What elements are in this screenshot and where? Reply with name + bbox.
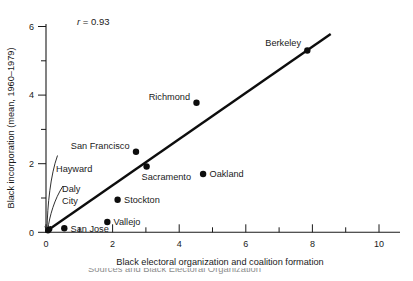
point-daly-city[interactable] [45, 228, 51, 234]
label-stockton: Stockton [124, 195, 160, 205]
label-san-francisco: San Francisco [71, 141, 130, 151]
point-labels: Berkeley Richmond San Francisco Sacramen… [56, 38, 301, 234]
label-sacramento: Sacramento [142, 172, 192, 182]
y-axis: 0 2 4 6 Black incorporation (mean, 1960–… [6, 22, 46, 238]
scatter-plot: 0 2 4 6 Black incorporation (mean, 1960–… [0, 0, 413, 281]
y-tick-label-6: 6 [29, 22, 34, 32]
label-richmond: Richmond [149, 92, 190, 102]
correlation-annotation: r = 0.93 [77, 16, 110, 27]
label-san-jose: San Jose [71, 224, 109, 234]
point-richmond[interactable] [193, 100, 199, 106]
label-oakland: Oakland [210, 169, 244, 179]
figure-container: 0 2 4 6 Black incorporation (mean, 1960–… [0, 0, 413, 281]
y-axis-title: Black incorporation (mean, 1960–1979) [6, 48, 16, 209]
daly-city-leader-line [48, 186, 63, 230]
x-tick-label-2: 2 [110, 239, 115, 249]
x-tick-label-8: 8 [310, 239, 315, 249]
x-tick-label-4: 4 [177, 239, 182, 249]
x-tick-label-0: 0 [43, 239, 48, 249]
point-berkeley[interactable] [304, 47, 310, 53]
point-sacramento[interactable] [143, 163, 149, 169]
x-axis-title: Black electoral organization and coaliti… [116, 257, 323, 267]
caption-strip: Sources and Black Electoral Organization [0, 268, 413, 281]
label-city: City [62, 196, 78, 206]
correlation-value: = 0.93 [80, 16, 109, 27]
point-stockton[interactable] [114, 197, 120, 203]
label-vallejo: Vallejo [114, 217, 141, 227]
regression-line [46, 34, 331, 232]
partial-caption: Sources and Black Electoral Organization [88, 268, 261, 274]
point-san-jose[interactable] [61, 225, 67, 231]
point-san-francisco[interactable] [133, 149, 139, 155]
label-hayward: Hayward [56, 164, 92, 174]
y-tick-label-2: 2 [29, 159, 34, 169]
y-tick-label-4: 4 [29, 90, 34, 100]
label-berkeley: Berkeley [265, 38, 301, 48]
point-oakland[interactable] [200, 171, 206, 177]
label-daly: Daly [62, 184, 81, 194]
y-tick-label-0: 0 [29, 228, 34, 238]
x-tick-label-10: 10 [374, 239, 384, 249]
x-tick-label-6: 6 [243, 239, 248, 249]
